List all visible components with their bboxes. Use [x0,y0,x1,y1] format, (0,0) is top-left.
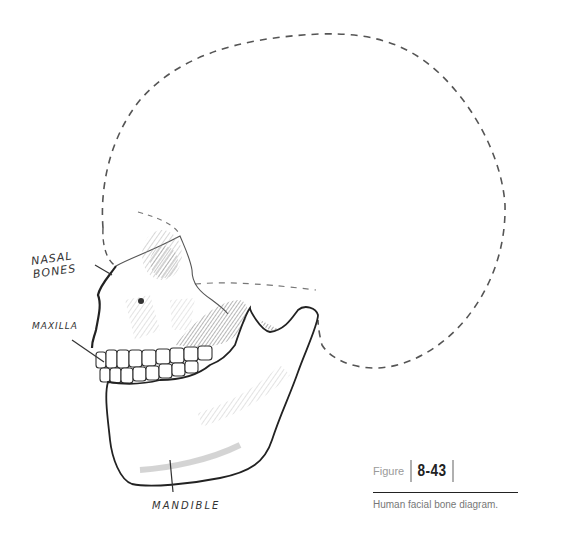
figure-caption-block: Figure 8-43 Human facial bone diagram. [373,459,518,510]
teeth [96,346,212,383]
figure-caption: Human facial bone diagram. [373,499,518,510]
figure-bar-right [452,460,454,482]
label-mandible: MANDIBLE [152,500,220,511]
figure-bar-left [410,460,412,482]
figure-word: Figure [373,465,404,477]
cranium-dashed-outline [102,34,505,368]
label-maxilla: MAXILLA [32,321,78,331]
figure-number: 8-43 [415,462,449,480]
figure-heading: Figure 8-43 [373,459,518,483]
figure-rule [373,492,518,493]
maxilla-leader [72,340,104,362]
nasal-leader [95,265,112,275]
